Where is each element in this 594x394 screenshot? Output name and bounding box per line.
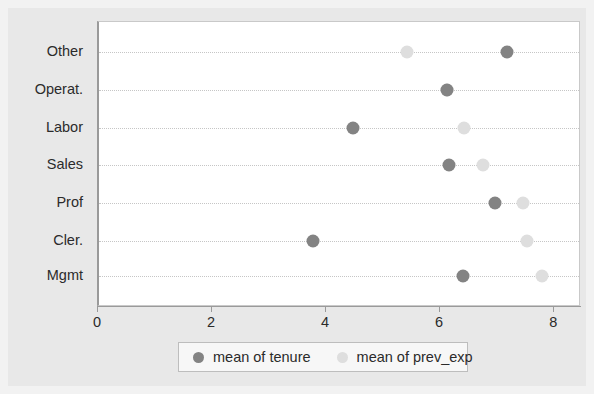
x-axis-tick-label: 0 (93, 314, 101, 330)
data-point[interactable] (477, 159, 490, 172)
gridline (99, 241, 579, 242)
plot-area (97, 21, 580, 306)
legend-entry-prev-exp[interactable]: mean of prev_exp (337, 349, 473, 365)
chart-figure: OtherOperat.LaborSalesProfCler.Mgmt 0246… (0, 0, 594, 394)
y-axis-tick-label: Cler. (53, 232, 83, 248)
y-axis-tick-label: Prof (56, 194, 83, 210)
data-point[interactable] (306, 235, 319, 248)
data-point[interactable] (489, 197, 502, 210)
data-point[interactable] (457, 270, 470, 283)
legend-entry-tenure[interactable]: mean of tenure (193, 349, 311, 365)
legend-label-tenure: mean of tenure (213, 349, 311, 365)
x-axis-tick-label: 4 (321, 314, 329, 330)
x-axis-tick-label: 6 (435, 314, 443, 330)
legend-marker-tenure-icon (193, 352, 204, 363)
x-axis-tick-label: 8 (549, 314, 557, 330)
x-axis-tick-labels: 02468 (8, 306, 594, 336)
data-point[interactable] (347, 122, 360, 135)
legend-marker-prev-exp-icon (337, 352, 348, 363)
y-axis-labels: OtherOperat.LaborSalesProfCler.Mgmt (8, 8, 91, 394)
data-point[interactable] (440, 84, 453, 97)
gridline (99, 128, 579, 129)
y-axis-tick-label: Labor (46, 119, 83, 135)
data-point[interactable] (400, 46, 413, 59)
legend-label-prev-exp: mean of prev_exp (357, 349, 473, 365)
data-point[interactable] (457, 122, 470, 135)
gridline (99, 276, 579, 277)
gridline (99, 90, 579, 91)
data-point[interactable] (501, 46, 514, 59)
data-point[interactable] (521, 235, 534, 248)
y-axis-tick-label: Operat. (35, 81, 83, 97)
x-axis-tick-label: 2 (207, 314, 215, 330)
y-axis-tick-label: Sales (47, 156, 83, 172)
data-point[interactable] (536, 270, 549, 283)
data-point[interactable] (443, 159, 456, 172)
y-axis-tick-label: Mgmt (47, 267, 83, 283)
data-point[interactable] (517, 197, 530, 210)
gridline (99, 165, 579, 166)
chart-legend: mean of tenure mean of prev_exp (178, 342, 468, 372)
gridline (99, 203, 579, 204)
y-axis-tick-label: Other (47, 43, 83, 59)
